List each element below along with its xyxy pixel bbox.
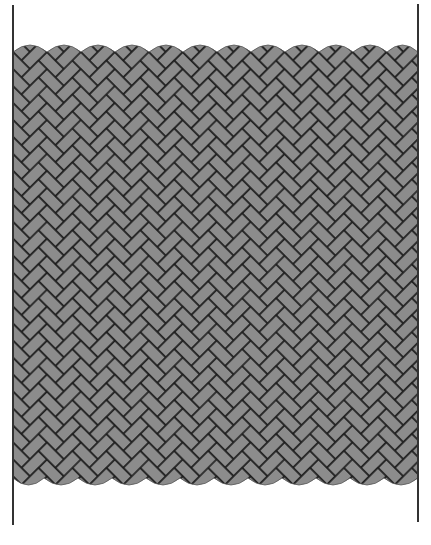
herringbone-diagram [0, 0, 431, 545]
brick-field [0, 0, 431, 545]
